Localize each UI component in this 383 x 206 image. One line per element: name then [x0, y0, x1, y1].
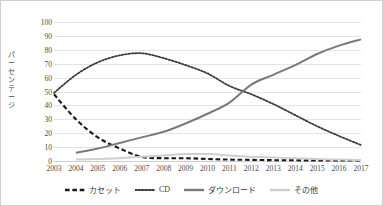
legend-item[interactable]: カセット — [65, 184, 121, 195]
legend-item[interactable]: ダウンロード — [184, 184, 256, 195]
x-axis-tick-label: 2006 — [112, 164, 127, 173]
x-axis-tick-label: 2013 — [266, 164, 281, 173]
legend-swatch — [184, 186, 204, 194]
legend-swatch — [270, 186, 290, 194]
x-axis-tick-label: 2009 — [178, 164, 193, 173]
x-axis-tick-label: 2007 — [134, 164, 149, 173]
legend-swatch — [135, 186, 155, 194]
x-axis-tick-label: 2003 — [47, 164, 62, 173]
x-axis-tick-label: 2016 — [332, 164, 347, 173]
legend-label: ダウンロード — [208, 184, 256, 195]
x-axis-tick-label: 2017 — [354, 164, 369, 173]
x-axis-tick-label: 2005 — [90, 164, 105, 173]
x-axis-tick-labels: 2003200420052006200720082009201020112012… — [54, 164, 361, 176]
x-axis-tick-label: 2015 — [310, 164, 325, 173]
legend-label: その他 — [294, 184, 318, 195]
legend-swatch — [65, 186, 85, 194]
x-axis-tick-label: 2004 — [68, 164, 83, 173]
x-axis-tick-label: 2010 — [200, 164, 215, 173]
line-chart: パーセンテージ 0102030405060708090100 200320042… — [0, 0, 383, 206]
x-axis-tick-label: 2012 — [244, 164, 259, 173]
legend-label: カセット — [89, 184, 121, 195]
legend-label: CD — [159, 185, 170, 194]
series-line — [54, 53, 361, 145]
x-axis-tick-label: 2011 — [222, 164, 237, 173]
legend-item[interactable]: CD — [135, 185, 170, 194]
series-line — [54, 94, 361, 160]
x-axis-tick-label: 2008 — [156, 164, 171, 173]
x-axis-tick-label: 2014 — [288, 164, 303, 173]
legend-item[interactable]: その他 — [270, 184, 318, 195]
chart-legend: カセットCDダウンロードその他 — [1, 184, 382, 195]
